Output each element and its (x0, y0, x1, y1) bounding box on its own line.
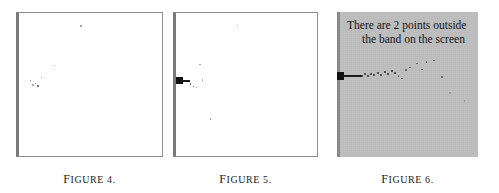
figure-5-plot-panel (173, 12, 318, 157)
data-point (41, 77, 43, 79)
figure-row: FIGURE 4. FIGURE 5. There are 2 points o… (0, 0, 499, 193)
data-point (398, 75, 400, 77)
data-point (37, 85, 39, 87)
data-point (190, 83, 192, 85)
data-point (405, 69, 407, 71)
data-point (367, 75, 369, 77)
data-point (32, 84, 34, 86)
data-point (387, 73, 389, 75)
data-point (361, 75, 363, 77)
data-point (401, 78, 403, 80)
figure-5-caption-text: IGURE 5. (226, 174, 271, 185)
figure-4-caption-text: IGURE 4. (70, 174, 115, 185)
figure-6-caption: FIGURE 6. (337, 172, 478, 187)
data-point (370, 73, 372, 75)
data-point (202, 79, 204, 81)
data-point (391, 70, 393, 72)
data-point (54, 65, 56, 67)
data-point (421, 69, 423, 71)
figure-6-caption-text: IGURE 6. (388, 174, 433, 185)
figure-5-run-line (181, 80, 190, 82)
figure-6-scatter (337, 12, 478, 157)
data-point (394, 72, 396, 74)
data-point (380, 74, 382, 76)
data-point (441, 76, 443, 78)
data-point (237, 25, 239, 27)
data-point (210, 118, 212, 120)
data-point (449, 92, 451, 94)
data-point (464, 100, 466, 102)
figure-6-plot-panel: There are 2 points outside the band on t… (337, 12, 478, 157)
figure-5-scatter (176, 13, 317, 156)
data-point (35, 83, 37, 85)
figure-5-caption: FIGURE 5. (173, 172, 318, 187)
data-point (373, 74, 375, 76)
data-point (433, 60, 435, 62)
data-point (426, 61, 428, 63)
figure-6-run-line (342, 75, 362, 77)
data-point (30, 80, 32, 82)
figure-4-caption: FIGURE 4. (16, 172, 163, 187)
figure-4-plot-panel (16, 12, 163, 157)
data-point (409, 67, 411, 69)
figure-4-scatter (19, 13, 162, 156)
data-point (80, 25, 82, 27)
data-point (416, 63, 418, 65)
data-point (364, 73, 366, 75)
data-point (384, 71, 386, 73)
data-point (196, 87, 198, 89)
data-point (193, 86, 195, 88)
data-point (377, 72, 379, 74)
data-point (199, 64, 201, 66)
